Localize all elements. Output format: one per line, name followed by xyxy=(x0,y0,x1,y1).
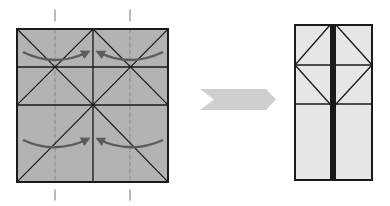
origami-diagram xyxy=(0,0,390,206)
chevron-arrow-icon xyxy=(200,89,276,110)
before-fold-square xyxy=(17,10,168,200)
process-arrow-icon xyxy=(200,89,276,110)
center-seam xyxy=(330,25,336,180)
after-fold-rectangle xyxy=(295,25,372,180)
